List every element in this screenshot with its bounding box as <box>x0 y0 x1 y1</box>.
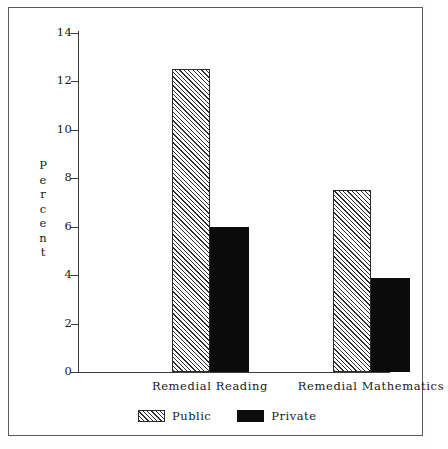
y-axis-title-letter: r <box>36 187 50 202</box>
legend: Public Private <box>138 409 317 423</box>
y-axis-title-letter: n <box>36 231 50 246</box>
y-tick-mark <box>71 275 78 276</box>
bar-private-1[interactable] <box>371 278 410 372</box>
y-tick-mark <box>71 81 78 82</box>
hatch-swatch-icon <box>138 410 165 422</box>
bar-private-0[interactable] <box>210 227 249 372</box>
y-tick-mark <box>71 33 78 34</box>
legend-label: Private <box>271 409 316 423</box>
y-axis-title-letter: t <box>36 245 50 260</box>
y-tick-mark <box>71 372 78 373</box>
y-axis-title-letter: e <box>36 173 50 188</box>
y-tick-label: 0 <box>64 366 72 378</box>
legend-label: Public <box>172 409 211 423</box>
y-tick-mark <box>71 178 78 179</box>
bar-public-0[interactable] <box>172 69 211 372</box>
y-tick-mark <box>71 227 78 228</box>
y-axis-title-letter: P <box>36 158 50 173</box>
x-axis-category-label: Remedial Mathematics <box>271 379 448 393</box>
y-tick-label: 6 <box>64 221 72 233</box>
y-axis-title: P e r c e n t <box>36 158 50 260</box>
y-tick-label: 8 <box>64 173 72 185</box>
y-tick-label: 4 <box>64 269 72 281</box>
legend-item-public[interactable]: Public <box>138 409 211 423</box>
x-axis-line <box>78 372 390 373</box>
y-tick-mark <box>71 324 78 325</box>
y-axis-title-letter: c <box>36 202 50 217</box>
y-axis-title-letter: e <box>36 216 50 231</box>
plot-area: 02468101214 <box>78 33 390 372</box>
y-tick-label: 14 <box>57 27 72 39</box>
solid-swatch-icon <box>237 410 264 422</box>
bar-public-1[interactable] <box>333 190 372 372</box>
y-tick-mark <box>71 130 78 131</box>
legend-item-private[interactable]: Private <box>237 409 316 423</box>
y-tick-label: 2 <box>64 318 72 330</box>
y-tick-label: 10 <box>57 124 72 136</box>
y-tick-label: 12 <box>57 76 72 88</box>
